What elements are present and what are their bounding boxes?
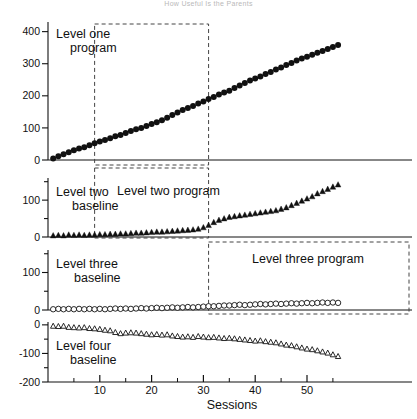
data-point xyxy=(252,75,258,81)
data-point xyxy=(144,331,149,336)
data-point xyxy=(309,52,315,58)
data-point xyxy=(247,211,253,216)
data-point xyxy=(66,232,72,237)
data-point xyxy=(211,334,216,339)
data-point xyxy=(278,341,283,346)
data-point xyxy=(180,227,186,232)
ytick-label: 0 xyxy=(34,318,40,330)
data-point xyxy=(92,326,97,331)
data-point xyxy=(206,335,211,340)
data-point xyxy=(138,125,144,131)
data-point xyxy=(325,300,330,305)
data-point xyxy=(227,335,232,340)
data-point xyxy=(226,88,232,94)
data-point xyxy=(102,231,108,236)
figure-root: How Useful Is the Parents 01002003004000… xyxy=(0,0,417,419)
data-point xyxy=(335,182,341,187)
data-point xyxy=(170,333,175,338)
data-point xyxy=(180,334,185,339)
data-point xyxy=(299,198,305,203)
data-point xyxy=(278,206,284,211)
data-point xyxy=(253,338,258,343)
data-point xyxy=(123,330,128,335)
xtick-label: 10 xyxy=(94,384,106,396)
data-point xyxy=(164,115,170,121)
data-point xyxy=(221,303,226,308)
data-point xyxy=(226,214,232,219)
data-point xyxy=(169,228,175,233)
data-point xyxy=(133,230,139,235)
data-point xyxy=(81,144,87,150)
data-point xyxy=(159,305,164,310)
data-point xyxy=(320,48,326,54)
data-point xyxy=(97,306,102,311)
data-point xyxy=(242,212,248,217)
data-point xyxy=(51,323,56,328)
xtick-label: 20 xyxy=(145,384,157,396)
data-point xyxy=(247,77,253,83)
data-point xyxy=(221,216,227,221)
data-point xyxy=(66,306,71,311)
phase-annotation: Level two program xyxy=(117,184,220,198)
data-point xyxy=(76,145,82,151)
data-point xyxy=(201,334,206,339)
data-point xyxy=(113,329,118,334)
data-point xyxy=(128,128,134,134)
data-point xyxy=(201,224,207,229)
data-point xyxy=(216,303,221,308)
data-point xyxy=(50,307,55,312)
data-point xyxy=(133,330,138,335)
data-point xyxy=(175,333,180,338)
data-point xyxy=(201,304,206,309)
data-point xyxy=(190,305,195,310)
data-point xyxy=(247,302,252,307)
data-point xyxy=(268,301,273,306)
data-point xyxy=(50,155,56,161)
data-point xyxy=(237,336,242,341)
data-point xyxy=(258,210,264,215)
data-point xyxy=(335,300,340,305)
data-point xyxy=(185,227,191,232)
data-point xyxy=(164,228,170,233)
data-point xyxy=(253,302,258,307)
data-point xyxy=(61,233,67,238)
data-point xyxy=(87,232,93,237)
data-point xyxy=(76,232,82,237)
data-point xyxy=(128,230,134,235)
data-point xyxy=(56,306,61,311)
data-point xyxy=(138,230,144,235)
data-point xyxy=(309,301,314,306)
data-point xyxy=(304,300,309,305)
data-point xyxy=(190,227,196,232)
data-point xyxy=(112,133,118,139)
data-point xyxy=(107,135,113,141)
data-point xyxy=(128,306,133,311)
data-point xyxy=(232,213,238,218)
chart-canvas: 010020030040001000100-200-10001020304050… xyxy=(0,0,417,419)
data-point xyxy=(149,229,155,234)
data-point xyxy=(273,207,279,212)
data-point xyxy=(123,231,129,236)
data-point xyxy=(190,103,196,109)
data-point xyxy=(144,230,150,235)
ytick-label: 400 xyxy=(22,25,40,37)
data-point xyxy=(216,92,222,98)
data-point xyxy=(315,348,320,353)
data-point xyxy=(304,346,309,351)
data-point xyxy=(289,343,294,348)
data-point xyxy=(112,231,118,236)
data-point xyxy=(232,302,237,307)
data-point xyxy=(56,323,61,328)
series-panel-1 xyxy=(50,42,341,161)
xtick-label: 50 xyxy=(301,384,313,396)
data-point xyxy=(263,71,269,77)
data-point xyxy=(330,184,336,189)
ytick-label: 300 xyxy=(22,57,40,69)
data-point xyxy=(123,130,129,136)
xaxis-label: Sessions xyxy=(207,398,258,412)
data-point xyxy=(50,233,56,238)
data-point xyxy=(237,83,243,89)
data-point xyxy=(143,123,149,129)
phase-annotation: Level threebaseline xyxy=(56,257,121,285)
data-point xyxy=(325,46,331,52)
